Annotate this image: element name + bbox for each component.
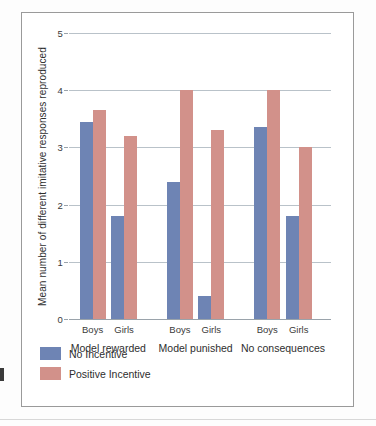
y-tick-mark-1	[64, 262, 68, 263]
plot-area: 012345BoysGirlsModel rewardedBoysGirlsMo…	[69, 33, 331, 319]
bar-no-incentive-model-rewarded-girls	[111, 216, 124, 319]
y-tick-label-3: 3	[58, 142, 63, 153]
x-sublabel-no-consequences-girls: Girls	[289, 324, 309, 335]
y-tick-label-0: 0	[58, 314, 63, 325]
scan-artifact-rule	[0, 419, 376, 420]
bar-no-incentive-model-punished-boys	[167, 182, 180, 319]
y-tick-label-2: 2	[58, 199, 63, 210]
legend-item-no-incentive: No Incentive	[40, 345, 151, 362]
legend-label-positive-incentive: Positive Incentive	[69, 368, 151, 380]
legend-swatch-positive-incentive	[40, 367, 61, 380]
y-axis-title-text: Mean number of different imitative respo…	[37, 47, 48, 306]
bar-positive-incentive-no-consequences-boys	[267, 90, 280, 319]
chart-legend: No Incentive Positive Incentive	[40, 345, 151, 385]
bar-no-incentive-no-consequences-girls	[286, 216, 299, 319]
legend-label-no-incentive: No Incentive	[69, 348, 127, 360]
y-tick-mark-3	[64, 147, 68, 148]
y-tick-mark-2	[64, 205, 68, 206]
bar-positive-incentive-model-punished-girls	[211, 130, 224, 319]
gridline-5	[69, 33, 331, 34]
gridline-3	[69, 147, 331, 148]
x-sublabel-model-punished-girls: Girls	[202, 324, 222, 335]
y-axis-title: Mean number of different imitative respo…	[34, 31, 50, 321]
x-sublabel-model-punished-boys: Boys	[169, 324, 190, 335]
bar-no-incentive-no-consequences-boys	[254, 127, 267, 319]
bar-no-incentive-model-punished-girls	[198, 296, 211, 319]
bar-positive-incentive-no-consequences-girls	[299, 147, 312, 319]
y-tick-mark-5	[64, 33, 68, 34]
x-sublabel-model-rewarded-girls: Girls	[114, 324, 134, 335]
gridline-2	[69, 205, 331, 206]
bar-no-incentive-model-rewarded-boys	[80, 122, 93, 319]
x-sublabel-no-consequences-boys: Boys	[257, 324, 278, 335]
legend-item-positive-incentive: Positive Incentive	[40, 365, 151, 382]
y-tick-mark-0	[64, 319, 68, 320]
gridline-0	[69, 319, 331, 320]
bar-positive-incentive-model-rewarded-boys	[93, 110, 106, 319]
gridline-4	[69, 90, 331, 91]
y-tick-label-5: 5	[58, 28, 63, 39]
x-group-label-model-punished: Model punished	[159, 342, 233, 354]
y-tick-label-1: 1	[58, 256, 63, 267]
x-sublabel-model-rewarded-boys: Boys	[82, 324, 103, 335]
y-tick-label-4: 4	[58, 85, 63, 96]
y-tick-mark-4	[64, 90, 68, 91]
legend-swatch-no-incentive	[40, 347, 61, 360]
x-group-label-no-consequences: No consequences	[241, 342, 325, 354]
scan-artifact-mark	[0, 368, 4, 381]
bar-positive-incentive-model-rewarded-girls	[124, 136, 137, 319]
bar-positive-incentive-model-punished-boys	[180, 90, 193, 319]
